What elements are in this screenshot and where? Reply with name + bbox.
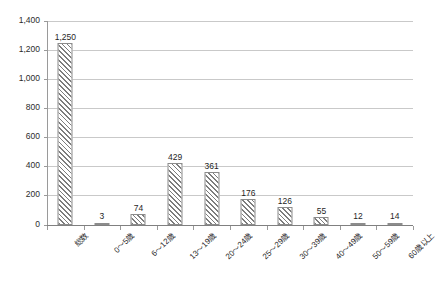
- y-tick-label: 600: [0, 132, 40, 141]
- bar: [241, 199, 256, 225]
- bar: [314, 217, 329, 225]
- x-tick-label: 50～59歳: [371, 231, 401, 261]
- bar: [94, 223, 109, 225]
- bar-value-label: 74: [134, 204, 143, 213]
- y-tick-label: 800: [0, 103, 40, 112]
- bar-slot: 12: [340, 21, 377, 225]
- bar-value-label: 429: [168, 153, 182, 162]
- x-tick-label: 6～12歳: [150, 231, 177, 258]
- bar-value-label: 3: [100, 212, 105, 221]
- x-tick-mark: [267, 226, 268, 230]
- y-tick-label: 200: [0, 190, 40, 199]
- x-tick-label: 25～29歳: [261, 231, 291, 261]
- x-tick-mark: [84, 226, 85, 230]
- bar-value-label: 126: [278, 197, 292, 206]
- bar-value-label: 1,250: [55, 33, 76, 42]
- bar-slot: 429: [157, 21, 194, 225]
- y-tick-label: 1,200: [0, 45, 40, 54]
- x-tick-mark: [340, 226, 341, 230]
- x-tick-mark: [230, 226, 231, 230]
- x-tick-mark: [376, 226, 377, 230]
- bar-slot: 176: [230, 21, 267, 225]
- bar: [204, 172, 219, 225]
- bar: [387, 223, 402, 225]
- bar-slot: 14: [376, 21, 413, 225]
- bar-slot: 74: [120, 21, 157, 225]
- bar-value-label: 12: [353, 212, 362, 221]
- bar: [277, 207, 292, 225]
- bar: [58, 43, 73, 225]
- x-tick-label: 13～19歳: [188, 231, 218, 261]
- bar-slot: 126: [267, 21, 304, 225]
- y-tick-label: 1,400: [0, 16, 40, 25]
- x-tick-label: 総数: [73, 231, 91, 249]
- x-tick-mark: [303, 226, 304, 230]
- bars-layer: 1,250 3 74 429 361 176 126 55: [47, 21, 413, 225]
- x-tick-mark: [193, 226, 194, 230]
- bar-value-label: 176: [241, 189, 255, 198]
- y-tick-label: 1,000: [0, 74, 40, 83]
- bar-slot: 3: [84, 21, 121, 225]
- bar-value-label: 14: [390, 212, 399, 221]
- x-tick-mark: [47, 226, 48, 230]
- bar-value-label: 361: [205, 162, 219, 171]
- x-tick-mark: [157, 226, 158, 230]
- x-tick-label: 40～49歳: [334, 231, 364, 261]
- bar: [351, 223, 366, 225]
- x-tick-label: 30～39歳: [297, 231, 327, 261]
- x-tick-label: 0～5歳: [112, 231, 136, 255]
- y-tick-label: 400: [0, 161, 40, 170]
- bar-value-label: 55: [317, 207, 326, 216]
- y-tick-label: 0: [0, 220, 40, 229]
- bar-slot: 361: [193, 21, 230, 225]
- bar-slot: 1,250: [47, 21, 84, 225]
- x-tick-label: 60歳以上: [407, 231, 437, 261]
- x-tick-mark: [120, 226, 121, 230]
- x-tick-mark: [413, 226, 414, 230]
- bar: [131, 214, 146, 225]
- x-tick-label: 20～24歳: [224, 231, 254, 261]
- bar-slot: 55: [303, 21, 340, 225]
- bar: [168, 163, 183, 225]
